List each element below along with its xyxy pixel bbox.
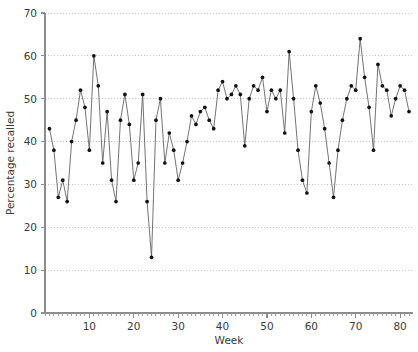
data-point bbox=[110, 178, 114, 182]
data-point bbox=[52, 148, 56, 152]
data-point bbox=[398, 84, 402, 88]
data-point bbox=[194, 123, 198, 127]
data-point bbox=[256, 88, 260, 92]
y-axis-ticks bbox=[41, 13, 46, 313]
data-point bbox=[212, 127, 216, 131]
data-point bbox=[88, 148, 92, 152]
data-point bbox=[181, 161, 185, 165]
data-point bbox=[270, 88, 274, 92]
data-point bbox=[203, 105, 207, 109]
x-tick-label: 80 bbox=[393, 320, 406, 332]
data-point bbox=[132, 178, 136, 182]
x-tick-label: 50 bbox=[260, 320, 273, 332]
x-tick-label: 30 bbox=[171, 320, 184, 332]
data-point bbox=[92, 54, 96, 58]
data-point bbox=[207, 118, 211, 122]
data-point bbox=[309, 110, 313, 114]
data-point bbox=[403, 88, 407, 92]
data-point bbox=[230, 93, 234, 97]
data-point bbox=[199, 110, 203, 114]
data-point bbox=[114, 200, 118, 204]
x-tick-label: 40 bbox=[216, 320, 229, 332]
data-point bbox=[345, 97, 349, 101]
data-point bbox=[61, 178, 65, 182]
data-point bbox=[327, 161, 331, 165]
data-point bbox=[127, 123, 131, 127]
data-point bbox=[48, 127, 52, 131]
data-point bbox=[105, 110, 109, 114]
y-axis: 010203040506070 bbox=[24, 7, 45, 319]
y-tick-label: 50 bbox=[24, 93, 37, 105]
data-point bbox=[79, 88, 83, 92]
data-point bbox=[163, 161, 167, 165]
y-tick-label: 10 bbox=[24, 264, 37, 276]
x-tick-label: 10 bbox=[83, 320, 96, 332]
data-point bbox=[292, 97, 296, 101]
data-point bbox=[83, 105, 87, 109]
data-point bbox=[221, 80, 225, 84]
data-point bbox=[252, 84, 256, 88]
data-point bbox=[136, 161, 140, 165]
data-point bbox=[336, 148, 340, 152]
data-point bbox=[323, 127, 327, 131]
data-point bbox=[341, 118, 345, 122]
data-point bbox=[363, 75, 367, 79]
data-point bbox=[305, 191, 309, 195]
data-point bbox=[385, 88, 389, 92]
y-axis-title: Percentage recalled bbox=[4, 111, 16, 215]
data-point bbox=[265, 110, 269, 114]
data-point bbox=[101, 161, 105, 165]
data-point bbox=[367, 105, 371, 109]
data-point bbox=[167, 131, 171, 135]
data-point bbox=[247, 97, 251, 101]
series-line-percentage-recalled bbox=[49, 39, 409, 258]
y-tick-label: 60 bbox=[24, 50, 37, 62]
data-point bbox=[243, 144, 247, 148]
data-point bbox=[354, 88, 358, 92]
data-point bbox=[190, 114, 194, 118]
data-point bbox=[372, 148, 376, 152]
gridlines bbox=[45, 13, 413, 270]
x-axis-tick-labels: 1020304050607080 bbox=[83, 320, 407, 332]
data-point bbox=[159, 97, 163, 101]
data-point bbox=[332, 195, 336, 199]
data-point bbox=[301, 178, 305, 182]
data-point bbox=[56, 195, 60, 199]
data-point bbox=[314, 84, 318, 88]
data-point bbox=[225, 97, 229, 101]
data-point bbox=[238, 93, 242, 97]
data-point bbox=[119, 118, 123, 122]
data-point bbox=[296, 148, 300, 152]
data-point bbox=[234, 84, 238, 88]
data-point bbox=[394, 97, 398, 101]
data-point bbox=[318, 101, 322, 105]
data-point bbox=[407, 110, 411, 114]
data-point bbox=[376, 63, 380, 67]
data-point bbox=[96, 84, 100, 88]
y-tick-label: 40 bbox=[24, 135, 37, 147]
x-tick-label: 20 bbox=[127, 320, 140, 332]
x-axis-title: Week bbox=[215, 334, 245, 346]
data-point bbox=[74, 118, 78, 122]
data-point bbox=[287, 50, 291, 54]
line-chart: 010203040506070 1020304050607080 Week Pe… bbox=[0, 0, 418, 352]
data-point bbox=[145, 200, 149, 204]
y-tick-label: 70 bbox=[24, 7, 37, 19]
y-tick-label: 20 bbox=[24, 221, 37, 233]
data-point bbox=[389, 114, 393, 118]
data-point bbox=[283, 131, 287, 135]
data-point bbox=[70, 140, 74, 144]
data-point bbox=[185, 140, 189, 144]
y-tick-label: 30 bbox=[24, 178, 37, 190]
y-tick-label: 0 bbox=[30, 307, 37, 319]
chart-container: 010203040506070 1020304050607080 Week Pe… bbox=[0, 0, 418, 352]
data-series bbox=[48, 37, 411, 259]
data-point bbox=[349, 84, 353, 88]
data-point bbox=[65, 200, 69, 204]
data-point bbox=[123, 93, 127, 97]
data-point bbox=[176, 178, 180, 182]
data-point bbox=[358, 37, 362, 41]
data-point bbox=[381, 84, 385, 88]
x-tick-label: 70 bbox=[349, 320, 362, 332]
data-point bbox=[216, 88, 220, 92]
